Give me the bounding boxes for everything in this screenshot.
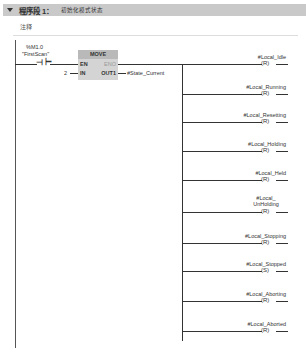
coil-icon[interactable]: (R) bbox=[261, 176, 269, 182]
wire bbox=[50, 64, 78, 65]
coil-type: R bbox=[263, 90, 267, 96]
network-label: 程序段 1： bbox=[19, 5, 53, 16]
coil-icon[interactable]: (R) bbox=[261, 327, 269, 333]
move-block[interactable]: MOVE EN ENO IN OUT1 bbox=[78, 50, 118, 80]
coil-tag[interactable]: #Local_Idle bbox=[206, 54, 286, 60]
coil-icon[interactable]: (R) bbox=[261, 90, 269, 96]
wire bbox=[276, 243, 288, 244]
branch-wire bbox=[182, 64, 183, 341]
coil-icon[interactable]: (S) bbox=[261, 267, 269, 273]
coil-type: R bbox=[263, 60, 267, 66]
coil-type: R bbox=[263, 118, 267, 124]
wire bbox=[182, 271, 262, 272]
wire bbox=[276, 212, 288, 213]
coil-type: R bbox=[263, 176, 267, 182]
coil-type: R bbox=[263, 327, 267, 333]
no-contact-icon[interactable]: ⊣ ⊢ bbox=[36, 58, 52, 67]
coil-tag[interactable]: #Local_Holding bbox=[206, 141, 286, 147]
in-value[interactable]: 2 bbox=[64, 70, 67, 76]
wire bbox=[276, 122, 288, 123]
wire bbox=[182, 64, 262, 65]
wire bbox=[276, 151, 288, 152]
coil-tag[interactable]: #Local_Held bbox=[206, 170, 286, 176]
network-comment[interactable]: 注释 bbox=[20, 22, 32, 31]
network-header[interactable]: 程序段 1： 初始化模式状态 bbox=[3, 4, 306, 16]
wire bbox=[15, 64, 37, 65]
wire bbox=[118, 64, 182, 65]
separator bbox=[13, 35, 298, 36]
coil-tag[interactable]: #Local_Stopped bbox=[206, 261, 286, 267]
coil-tag[interactable]: #Local_Stopping bbox=[206, 233, 286, 239]
network-title[interactable]: 初始化模式状态 bbox=[61, 6, 103, 14]
in-pin: IN bbox=[80, 70, 86, 76]
wire bbox=[182, 151, 262, 152]
coil-icon[interactable]: (R) bbox=[261, 147, 269, 153]
wire bbox=[182, 180, 262, 181]
out-value[interactable]: #State_Current bbox=[127, 70, 164, 76]
wire bbox=[182, 331, 262, 332]
wire bbox=[182, 243, 262, 244]
contact-tag: "FirstScan" bbox=[22, 51, 49, 57]
coil-icon[interactable]: (R) bbox=[261, 60, 269, 66]
power-rail bbox=[15, 40, 16, 348]
wire bbox=[276, 301, 288, 302]
coil-type: R bbox=[263, 147, 267, 153]
wire bbox=[182, 212, 262, 213]
coil-icon[interactable]: (R) bbox=[261, 297, 269, 303]
coil-icon[interactable]: (R) bbox=[261, 118, 269, 124]
eno-pin: ENO bbox=[104, 61, 116, 67]
coil-type: S bbox=[263, 267, 267, 273]
coil-icon[interactable]: (R) bbox=[261, 239, 269, 245]
wire bbox=[276, 331, 288, 332]
wire bbox=[182, 94, 262, 95]
coil-type: R bbox=[263, 297, 267, 303]
coil-tag[interactable]: #Local_Running bbox=[206, 84, 286, 90]
out-pin: OUT1 bbox=[101, 70, 116, 76]
wire bbox=[70, 73, 78, 74]
wire bbox=[276, 94, 288, 95]
wire bbox=[276, 271, 288, 272]
move-title: MOVE bbox=[78, 50, 118, 59]
coil-tag[interactable]: #Local_ UnHolding bbox=[246, 195, 286, 207]
en-pin: EN bbox=[80, 61, 88, 67]
coil-icon[interactable]: (R) bbox=[261, 208, 269, 214]
coil-tag[interactable]: #Local_Aborted bbox=[206, 321, 286, 327]
contact-address: %M1.0 bbox=[26, 44, 43, 50]
wire bbox=[182, 122, 262, 123]
wire bbox=[182, 301, 262, 302]
wire bbox=[276, 180, 288, 181]
wire bbox=[118, 73, 126, 74]
coil-type: R bbox=[263, 208, 267, 214]
coil-tag[interactable]: #Local_Aborting bbox=[206, 291, 286, 297]
coil-type: R bbox=[263, 239, 267, 245]
collapse-triangle-icon[interactable] bbox=[7, 8, 13, 12]
coil-tag[interactable]: #Local_Resetting bbox=[206, 112, 286, 118]
wire bbox=[276, 64, 288, 65]
